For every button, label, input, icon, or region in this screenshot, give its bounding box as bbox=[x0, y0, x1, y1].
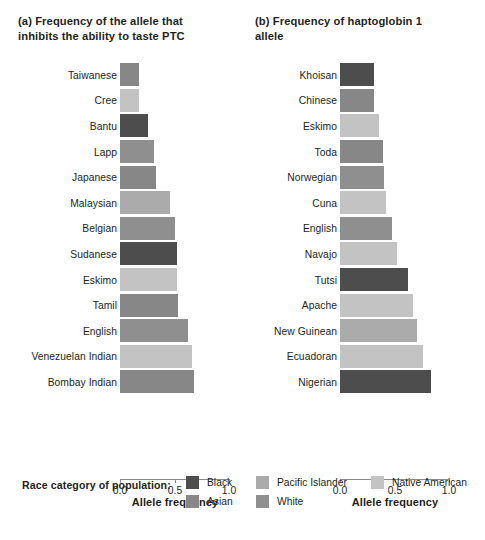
bar bbox=[120, 140, 154, 163]
bar-category-label: Tutsi bbox=[315, 274, 337, 285]
panel-a-bar-rows: TaiwaneseCreeBantuLappJapaneseMalaysianB… bbox=[0, 62, 242, 395]
bar-row: Venezuelan Indian bbox=[0, 344, 242, 370]
bar-category-label: Sudanese bbox=[70, 248, 117, 259]
bar bbox=[120, 89, 139, 112]
panel-a-title: (a) Frequency of the allele that inhibit… bbox=[18, 14, 236, 45]
bar bbox=[120, 63, 139, 86]
bar bbox=[340, 345, 423, 368]
legend-swatch-black bbox=[186, 476, 199, 489]
bar-category-label: Lapp bbox=[94, 146, 117, 157]
bar-row: Eskimo bbox=[0, 267, 242, 293]
bar-row: Apache bbox=[243, 292, 485, 318]
bar-row: Ecuadoran bbox=[243, 344, 485, 370]
panel-b-title: (b) Frequency of haptoglobin 1 allele bbox=[255, 14, 479, 45]
legend-item-native-american: Native American bbox=[371, 476, 467, 489]
legend-label-white: White bbox=[277, 496, 303, 507]
bar-category-label: Eskimo bbox=[303, 120, 337, 131]
bar-row: Bombay Indian bbox=[0, 369, 242, 395]
legend-item-white: White bbox=[256, 495, 303, 508]
bar-row: Chinese bbox=[243, 88, 485, 114]
bar bbox=[120, 370, 194, 393]
legend-item-pacific-islander: Pacific Islander bbox=[256, 476, 347, 489]
bar-category-label: Apache bbox=[302, 300, 337, 311]
bar-row: Navajo bbox=[243, 241, 485, 267]
bar-row: English bbox=[0, 318, 242, 344]
bar bbox=[340, 319, 417, 342]
panel-a-plot-area: TaiwaneseCreeBantuLappJapaneseMalaysianB… bbox=[0, 62, 242, 417]
legend: Race category of population: Black Asian… bbox=[0, 470, 485, 522]
bar-category-label: Venezuelan Indian bbox=[31, 351, 117, 362]
legend-swatch-asian bbox=[186, 495, 199, 508]
bar-row: Tamil bbox=[0, 292, 242, 318]
bar bbox=[120, 166, 156, 189]
chart-panel-b: (b) Frequency of haptoglobin 1 allele Kh… bbox=[243, 0, 485, 455]
bar bbox=[340, 217, 392, 240]
bar bbox=[340, 89, 374, 112]
bar-category-label: Toda bbox=[314, 146, 337, 157]
bar-category-label: Cuna bbox=[312, 197, 337, 208]
bar-category-label: New Guinean bbox=[274, 325, 337, 336]
bar-row: Cuna bbox=[243, 190, 485, 216]
bar-row: Taiwanese bbox=[0, 62, 242, 88]
bar-category-label: Chinese bbox=[299, 95, 337, 106]
bar bbox=[340, 370, 431, 393]
bar-row: New Guinean bbox=[243, 318, 485, 344]
bar-category-label: Eskimo bbox=[83, 274, 117, 285]
figure-root: (a) Frequency of the allele that inhibit… bbox=[0, 0, 485, 540]
bar-category-label: English bbox=[83, 325, 117, 336]
legend-swatch-white bbox=[256, 495, 269, 508]
bar-category-label: Nigerian bbox=[298, 376, 337, 387]
bar-category-label: Khoisan bbox=[299, 69, 337, 80]
bar-category-label: Malaysian bbox=[70, 197, 117, 208]
chart-panel-a: (a) Frequency of the allele that inhibit… bbox=[0, 0, 242, 455]
legend-label-native-american: Native American bbox=[392, 477, 467, 488]
bar-row: Khoisan bbox=[243, 62, 485, 88]
bar-row: English bbox=[243, 216, 485, 242]
bar-category-label: Cree bbox=[94, 95, 117, 106]
bar-row: Bantu bbox=[0, 113, 242, 139]
legend-label-pacific-islander: Pacific Islander bbox=[277, 477, 347, 488]
bar bbox=[120, 217, 175, 240]
bar bbox=[120, 191, 170, 214]
bar bbox=[340, 268, 408, 291]
bar bbox=[120, 319, 188, 342]
bar-row: Sudanese bbox=[0, 241, 242, 267]
bar-row: Lapp bbox=[0, 139, 242, 165]
panel-b-bar-rows: KhoisanChineseEskimoTodaNorwegianCunaEng… bbox=[243, 62, 485, 395]
legend-item-asian: Asian bbox=[186, 495, 233, 508]
bar bbox=[120, 268, 177, 291]
bar-category-label: Japanese bbox=[72, 172, 117, 183]
legend-label-asian: Asian bbox=[207, 496, 233, 507]
bar bbox=[340, 242, 397, 265]
bar-row: Japanese bbox=[0, 164, 242, 190]
legend-swatch-pacific-islander bbox=[256, 476, 269, 489]
bar-row: Belgian bbox=[0, 216, 242, 242]
bar-row: Malaysian bbox=[0, 190, 242, 216]
bar-row: Cree bbox=[0, 88, 242, 114]
bar-category-label: Bombay Indian bbox=[48, 376, 117, 387]
bar-category-label: English bbox=[303, 223, 337, 234]
legend-item-black: Black bbox=[186, 476, 232, 489]
bar bbox=[120, 242, 177, 265]
bar bbox=[340, 63, 374, 86]
bar bbox=[120, 345, 192, 368]
bar-category-label: Tamil bbox=[93, 300, 117, 311]
bar bbox=[340, 114, 379, 137]
legend-title: Race category of population: bbox=[22, 479, 171, 491]
bar-row: Norwegian bbox=[243, 164, 485, 190]
bar bbox=[120, 294, 178, 317]
bar bbox=[340, 191, 386, 214]
bar-category-label: Norwegian bbox=[287, 172, 337, 183]
bar-row: Nigerian bbox=[243, 369, 485, 395]
bar bbox=[120, 114, 148, 137]
bar-row: Eskimo bbox=[243, 113, 485, 139]
legend-label-black: Black bbox=[207, 477, 232, 488]
bar bbox=[340, 294, 413, 317]
bar-category-label: Belgian bbox=[82, 223, 117, 234]
bar-category-label: Taiwanese bbox=[68, 69, 117, 80]
legend-swatch-native-american bbox=[371, 476, 384, 489]
panel-b-plot-area: KhoisanChineseEskimoTodaNorwegianCunaEng… bbox=[243, 62, 485, 417]
bar-row: Toda bbox=[243, 139, 485, 165]
bar-category-label: Ecuadoran bbox=[287, 351, 337, 362]
bar-row: Tutsi bbox=[243, 267, 485, 293]
